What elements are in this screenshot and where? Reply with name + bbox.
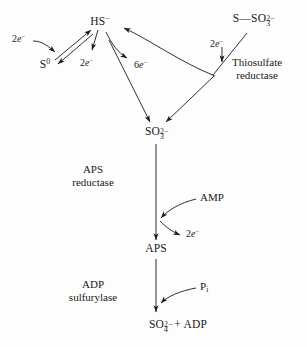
node-product: SO2−4 + ADP xyxy=(149,318,207,331)
node-elemental-sulfur-label: S xyxy=(40,58,47,70)
electron-label-aps: 2e− xyxy=(186,228,199,240)
arrow-sulfide-to-sulfite xyxy=(109,40,150,122)
electron-label-input: 2e− xyxy=(12,33,25,45)
node-sulfide-label: HS xyxy=(90,15,105,27)
arrow-thiosulfate-to-sulfite xyxy=(166,76,214,122)
arrow-phosphate-in xyxy=(161,288,196,303)
enzyme-thiosulfate-reductase: Thiosulfate reductase xyxy=(232,56,282,81)
node-sulfide-charge: − xyxy=(105,14,110,23)
enzyme-adp-sulfurylase: ADP sulfurylase xyxy=(69,278,117,303)
arrow-electrons-to-sulfur xyxy=(33,41,55,52)
enzyme-aps-reductase-line1: APS xyxy=(72,163,114,176)
enzyme-thiosulfate-reductase-line1: Thiosulfate xyxy=(232,56,282,69)
node-aps-label: APS xyxy=(145,242,167,254)
electron-label-sulfur-out-count: 2 xyxy=(80,57,85,68)
electron-label-thiosulfate: 2e− xyxy=(210,38,223,50)
node-thiosulfate-label: S—SO xyxy=(233,12,266,24)
node-thiosulfate: S—SO2−3 xyxy=(233,12,274,25)
node-elemental-sulfur-charge: 0 xyxy=(46,57,50,66)
node-sulfite-label: SO xyxy=(145,125,160,137)
enzyme-aps-reductase: APS reductase xyxy=(72,163,114,188)
node-sulfite: SO2−3 xyxy=(145,125,167,138)
cofactor-phosphate: Pi xyxy=(200,280,208,293)
electron-label-six: 6e− xyxy=(134,59,147,71)
node-product-label: SO xyxy=(149,318,164,330)
electron-label-thiosulfate-count: 2 xyxy=(210,38,215,49)
sulfate-reduction-pathway-figure: HS− S0 S—SO2−3 SO2−3 APS SO2−4 + ADP Thi… xyxy=(0,0,307,347)
cofactor-amp: AMP xyxy=(200,191,224,204)
cofactor-phosphate-sub: i xyxy=(206,285,208,294)
arrow-aps-electrons-out xyxy=(160,221,180,235)
enzyme-thiosulfate-reductase-line2: reductase xyxy=(232,69,282,82)
arrow-sulfide-electrons-2 xyxy=(92,30,98,50)
node-sulfide: HS− xyxy=(90,15,110,28)
arrow-layer xyxy=(0,0,307,347)
arrow-amp-in xyxy=(161,199,196,218)
electron-label-aps-count: 2 xyxy=(186,228,191,239)
enzyme-adp-sulfurylase-line2: sulfurylase xyxy=(69,291,117,304)
node-product-tail: + ADP xyxy=(171,318,207,330)
arrow-sulfur-to-sulfide xyxy=(55,30,91,60)
enzyme-adp-sulfurylase-line1: ADP xyxy=(69,278,117,291)
cofactor-amp-label: AMP xyxy=(200,191,224,203)
node-aps: APS xyxy=(145,242,167,255)
electron-label-input-count: 2 xyxy=(12,33,17,44)
electron-label-six-count: 6 xyxy=(134,59,139,70)
enzyme-aps-reductase-line2: reductase xyxy=(72,176,114,189)
electron-label-sulfur-out: 2e− xyxy=(80,57,93,69)
node-elemental-sulfur: S0 xyxy=(40,58,51,71)
